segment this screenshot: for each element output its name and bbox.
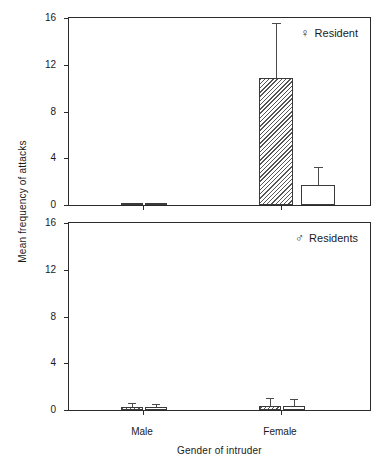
y-axis-title: Mean frequency of attacks [17,122,28,282]
x-tick-label-male: Male [131,426,153,437]
y-tick-4-bottom: 4 [64,363,69,364]
y-tick-16-bottom: 16 [64,223,69,224]
y-tick-label-12-bottom: 12 [45,265,56,275]
legend-label-bottom: Residents [309,232,358,244]
y-tick-label-4-top: 4 [50,153,56,163]
bar-top-male-open [145,203,167,205]
bar-top-male-hatched [121,203,143,205]
panel-female-resident: 16 12 8 4 0 [68,17,371,206]
errorbar-cap-top-female-open [314,167,323,168]
y-tick-label-8-bottom: 8 [50,312,56,322]
errorbar-cap-bottom-female-open [290,399,298,400]
errorbar-cap-bottom-female-hatched [266,398,274,399]
y-tick-label-4-bottom: 4 [50,358,56,368]
x-tick-female-bottom [281,410,282,415]
y-tick-label-8-top: 8 [50,107,56,117]
errorbar-top-female-hatched [276,24,277,78]
legend-label-top: Resident [315,27,358,39]
plot-area-top: 16 12 8 4 0 [69,18,370,205]
venus-icon: ♀ [301,27,310,39]
y-tick-label-0-top: 0 [50,200,56,210]
errorbar-cap-top-female-hatched [272,23,281,24]
x-axis-tick-labels: Male Female [68,426,371,440]
errorbar-cap-bottom-male-hatched [128,403,136,404]
legend-male-residents: ♂ Residents [295,232,358,244]
plot-area-bottom: 16 12 8 4 0 [69,223,370,410]
x-tick-female-top [281,205,282,210]
x-tick-male-bottom [143,410,144,415]
x-tick-label-female: Female [263,426,296,437]
y-tick-0-bottom: 0 [64,410,69,411]
x-tick-male-top [143,205,144,210]
y-tick-8-bottom: 8 [64,317,69,318]
bar-bottom-female-open [283,406,305,410]
errorbar-bottom-female-hatched [270,399,271,406]
y-tick-16-top: 16 [64,18,69,19]
bar-top-female-hatched [259,78,293,205]
errorbar-bottom-female-open [294,400,295,406]
y-tick-label-16-bottom: 16 [45,218,56,228]
bar-bottom-female-hatched [259,406,281,410]
y-tick-0-top: 0 [64,205,69,206]
errorbar-top-female-open [318,168,319,186]
x-axis-title: Gender of intruder [68,445,371,456]
bar-top-female-open [301,185,335,205]
errorbar-bottom-male-open [156,405,157,407]
bar-bottom-male-hatched [121,407,143,411]
y-tick-label-12-top: 12 [45,60,56,70]
y-tick-4-top: 4 [64,158,69,159]
y-tick-12-top: 12 [64,65,69,66]
bar-bottom-male-open [145,407,167,410]
y-tick-12-bottom: 12 [64,270,69,271]
y-tick-8-top: 8 [64,112,69,113]
mars-icon: ♂ [295,232,304,244]
errorbar-cap-bottom-male-open [152,404,160,405]
figure-canvas: Mean frequency of attacks 16 12 8 4 0 [0,0,382,466]
errorbar-bottom-male-hatched [132,404,133,407]
legend-female-resident: ♀ Resident [301,27,358,39]
y-tick-label-0-bottom: 0 [50,405,56,415]
panel-male-residents: 16 12 8 4 0 [68,222,371,411]
y-tick-label-16-top: 16 [45,13,56,23]
